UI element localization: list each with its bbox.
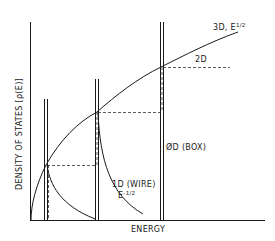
label-1d-line2: E-1/2: [118, 190, 135, 200]
label-1d-line1: 1D (WIRE): [112, 180, 156, 189]
y-axis-label: DENSITY OF STATES [ρ(E)]: [15, 78, 24, 190]
label-0d: ØD (BOX): [166, 142, 206, 152]
density-of-states-diagram: 3D, E1/2 2D ØD (BOX) 1D (WIRE) E-1/2 ENE…: [0, 0, 275, 241]
label-2d: 2D: [195, 55, 207, 64]
curve-1d-first: [47, 165, 95, 219]
label-3d: 3D, E1/2: [213, 22, 246, 32]
x-axis-label: ENERGY: [131, 225, 165, 234]
spike-0d-1: [45, 99, 48, 220]
spike-0d-3: [161, 22, 164, 220]
